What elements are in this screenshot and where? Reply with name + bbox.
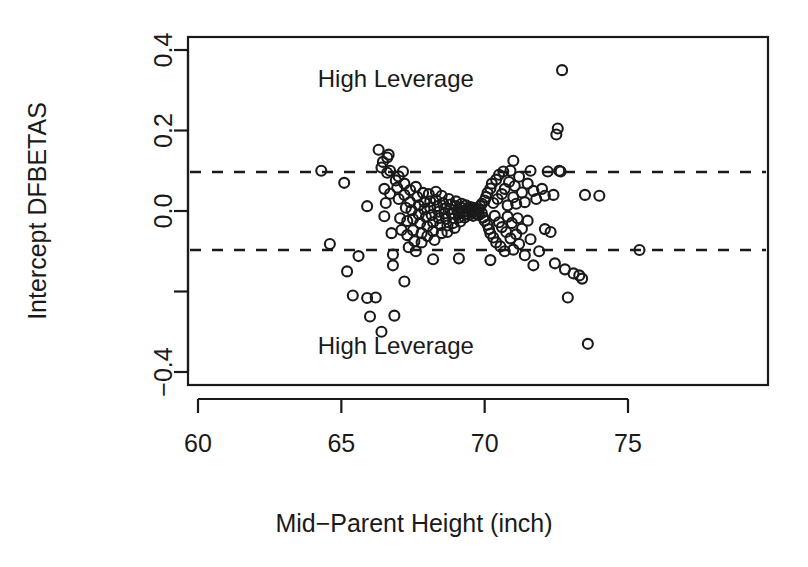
data-point (389, 311, 399, 321)
data-point (520, 250, 530, 260)
x-axis-ticks (198, 399, 628, 413)
data-point (580, 190, 590, 200)
plot-annotations: High LeverageHigh Leverage (318, 65, 474, 360)
x-axis-title: Mid−Parent Height (inch) (275, 509, 552, 537)
data-point (387, 228, 397, 238)
x-tick-label-60: 60 (184, 429, 212, 457)
y-axis-tick-labels: 0.40.20.0−0.4 (149, 33, 177, 397)
data-point (550, 258, 560, 268)
data-point (508, 156, 518, 166)
scatter-plot-figure: 0.40.20.0−0.4 60657075 High LeverageHigh… (0, 0, 808, 567)
data-point (526, 166, 536, 176)
chart-page: 0.40.20.0−0.4 60657075 High LeverageHigh… (0, 0, 808, 567)
data-point (454, 253, 464, 263)
data-point (583, 339, 593, 349)
x-tick-label-75: 75 (614, 429, 642, 457)
x-tick-label-65: 65 (327, 429, 355, 457)
data-point (428, 254, 438, 264)
data-point (339, 178, 349, 188)
annotation-high-leverage-top: High Leverage (318, 65, 474, 92)
data-point (348, 291, 358, 301)
x-axis-tick-labels: 60657075 (184, 429, 642, 457)
y-tick-label-0: 0.0 (149, 194, 177, 229)
data-point (362, 201, 372, 211)
y-tick-label--0.4: −0.4 (149, 347, 177, 396)
data-point (354, 251, 364, 261)
data-point (485, 255, 495, 265)
data-point (399, 276, 409, 286)
data-point (563, 293, 573, 303)
data-point (523, 216, 533, 226)
scatter-points (316, 65, 644, 349)
data-point (553, 123, 563, 133)
x-tick-label-70: 70 (471, 429, 499, 457)
data-point (316, 166, 326, 176)
y-tick-label-0.2: 0.2 (149, 113, 177, 148)
data-point (534, 246, 544, 256)
data-point (388, 260, 398, 270)
data-point (526, 234, 536, 244)
data-point (594, 191, 604, 201)
data-point (374, 145, 384, 155)
annotation-high-leverage-bottom: High Leverage (318, 332, 474, 359)
data-point (514, 239, 524, 249)
data-point (365, 311, 375, 321)
data-point (557, 65, 567, 75)
y-axis-title: Intercept DFBETAS (23, 102, 51, 320)
data-point (514, 172, 524, 182)
data-point (342, 266, 352, 276)
data-point (528, 260, 538, 270)
data-point (379, 211, 389, 221)
data-point (325, 239, 335, 249)
y-tick-label-0.4: 0.4 (149, 33, 177, 68)
